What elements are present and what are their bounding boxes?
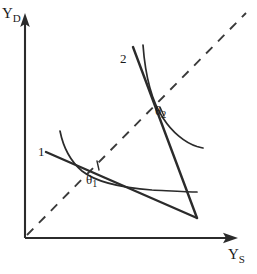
x-axis-label-base: Y xyxy=(228,246,239,262)
theta-1-subscript: 1 xyxy=(92,178,97,189)
economics-indifference-curve-diagram: YD YS 1 2 θ1 θ2 xyxy=(0,0,257,274)
x-axis-label: YS xyxy=(228,247,245,262)
y-axis-label-subscript: D xyxy=(13,12,21,24)
diagram-canvas xyxy=(0,0,257,274)
curve-1-label: 1 xyxy=(38,145,45,158)
y-axis-label-base: Y xyxy=(2,5,13,21)
theta-2-subscript: 2 xyxy=(161,109,166,120)
budget-line-1 xyxy=(46,152,197,218)
x-axis-label-subscript: S xyxy=(239,253,245,265)
y-axis-label: YD xyxy=(2,6,21,21)
curve-2-label: 2 xyxy=(120,52,127,65)
theta-2-label: θ2 xyxy=(155,104,166,117)
theta-1-label: θ1 xyxy=(86,173,97,186)
forty-five-degree-dashed-line xyxy=(27,13,246,235)
